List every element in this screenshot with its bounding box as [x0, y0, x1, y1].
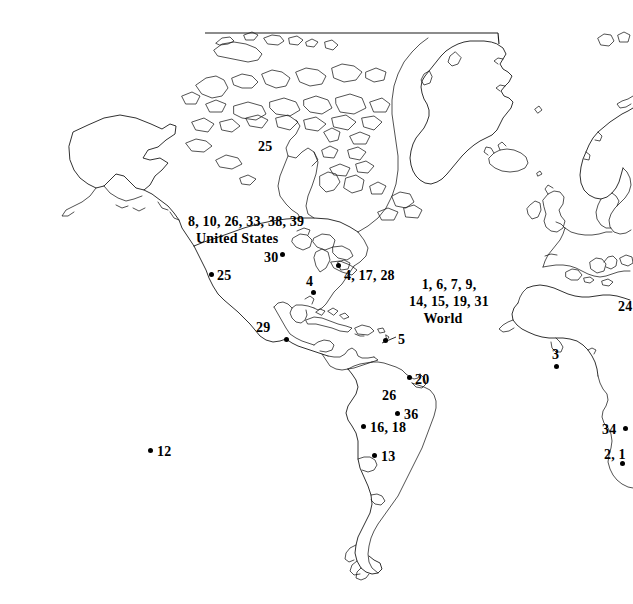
landmass-europe-mediterranean	[543, 228, 633, 286]
landmass-canada-west	[144, 190, 194, 246]
map-label-l-2-1: 2, 1	[604, 448, 626, 463]
landmass-greenland	[410, 41, 513, 184]
landmass-united-states	[194, 232, 368, 342]
site-marker-dot	[209, 272, 214, 277]
map-label-l-12: 12	[157, 445, 171, 460]
site-marker-dot	[623, 426, 628, 431]
site-marker-dot	[311, 290, 316, 295]
map-label-l-world-1: 1, 6, 7, 9,	[422, 278, 477, 293]
landmass-scandinavia	[580, 96, 633, 234]
map-label-l-na-list: 8, 10, 26, 33, 38, 39	[188, 215, 304, 230]
map-label-l-3: 3	[552, 348, 559, 363]
landmass-iceland	[484, 142, 528, 172]
landmass-alaska	[62, 115, 176, 216]
landmass-africa-north	[518, 285, 630, 303]
site-marker-dot	[148, 448, 153, 453]
landmass-mexico-central-america	[274, 307, 378, 370]
map-label-l-world-3: World	[423, 312, 462, 327]
map-label-l-16-18: 16, 18	[370, 421, 406, 436]
map-label-l-usa: United States	[196, 232, 278, 247]
site-marker-dot	[383, 338, 388, 343]
map-label-l-20: 20	[415, 373, 429, 388]
map-coastline-svg	[0, 0, 633, 604]
map-frame-lines	[205, 33, 499, 44]
map-label-l-13: 13	[381, 450, 395, 465]
site-marker-dot	[336, 263, 341, 268]
site-marker-dot	[361, 424, 366, 429]
map-label-l-4-17-28: 4, 17, 28	[344, 269, 395, 284]
map-label-l-29: 29	[256, 321, 270, 336]
map-label-l-30: 30	[264, 251, 278, 266]
map-label-l-34: 34	[602, 423, 616, 438]
caribbean-islands	[306, 308, 389, 340]
site-marker-dot	[284, 337, 289, 342]
landmass-british-isles	[527, 185, 565, 232]
landmass-canadian-arctic	[182, 32, 390, 185]
site-marker-dot	[407, 375, 412, 380]
map-label-l-26: 26	[382, 389, 396, 404]
map-label-l-24: 24	[618, 300, 632, 315]
world-map-figure: 8, 10, 26, 33, 38, 39United States253025…	[0, 0, 633, 604]
site-marker-dot	[395, 411, 400, 416]
map-label-l-4-east: 4	[306, 275, 313, 290]
map-label-l-25-west: 25	[217, 269, 231, 284]
map-label-l-5: 5	[398, 333, 405, 348]
map-label-l-world-2: 14, 15, 19, 31	[409, 295, 489, 310]
site-marker-dot	[372, 453, 377, 458]
map-label-l-25-canada: 25	[258, 140, 272, 155]
arctic-small-islands	[535, 32, 630, 176]
site-marker-dot	[554, 364, 559, 369]
site-marker-dot	[280, 252, 285, 257]
